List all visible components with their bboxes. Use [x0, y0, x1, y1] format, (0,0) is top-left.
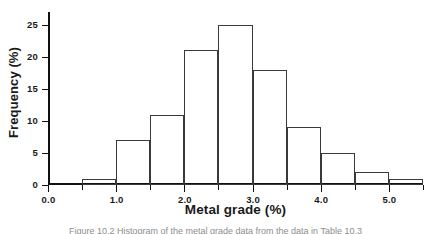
x-tick-minor: [287, 185, 288, 190]
y-tick: 15: [42, 89, 48, 90]
x-tick-minor: [150, 185, 151, 190]
y-axis-title: Frequency (%): [2, 0, 24, 185]
histogram-bar: [321, 153, 355, 185]
y-tick-label: 5: [33, 146, 38, 159]
x-tick-minor: [82, 185, 83, 190]
histogram-figure: Frequency (%) 0510152025 0.01.02.03.04.0…: [0, 0, 431, 234]
y-tick-label: 10: [27, 114, 38, 127]
x-tick-major: 5.0: [389, 185, 390, 192]
x-tick-major: 0.0: [48, 185, 49, 192]
histogram-bar: [355, 172, 389, 185]
x-tick-major: 2.0: [184, 185, 185, 192]
y-axis-spine: [48, 12, 50, 185]
x-tick-minor: [355, 185, 356, 190]
y-tick-label: 25: [27, 18, 38, 31]
y-tick-mark: [42, 121, 48, 122]
y-tick-mark: [42, 25, 48, 26]
histogram-bar: [116, 140, 150, 185]
histogram-bar: [184, 50, 218, 185]
y-tick: 10: [42, 121, 48, 122]
y-tick: 25: [42, 25, 48, 26]
x-tick-minor: [218, 185, 219, 190]
y-axis-title-label: Frequency (%): [6, 47, 21, 138]
y-tick-mark: [42, 89, 48, 90]
figure-caption: Figure 10.2 Histogram of the metal grade…: [0, 226, 431, 234]
y-tick-mark: [42, 57, 48, 58]
x-axis-title: Metal grade (%): [48, 202, 423, 217]
plot-area: 0510152025 0.01.02.03.04.05.0: [48, 12, 423, 185]
x-tick-major: 3.0: [253, 185, 254, 192]
y-tick-label: 20: [27, 50, 38, 63]
x-tick-major: 1.0: [116, 185, 117, 192]
x-tick-major: 4.0: [321, 185, 322, 192]
x-tick-minor: [423, 185, 424, 190]
y-tick: 5: [42, 153, 48, 154]
histogram-bar: [150, 115, 184, 185]
histogram-bar: [253, 70, 287, 185]
histogram-bar: [389, 179, 423, 185]
y-tick-label: 0: [33, 178, 38, 191]
y-tick: 20: [42, 57, 48, 58]
histogram-bar: [218, 25, 252, 185]
y-tick-mark: [42, 153, 48, 154]
histogram-bar: [82, 179, 116, 185]
histogram-bar: [287, 127, 321, 185]
y-tick-label: 15: [27, 82, 38, 95]
